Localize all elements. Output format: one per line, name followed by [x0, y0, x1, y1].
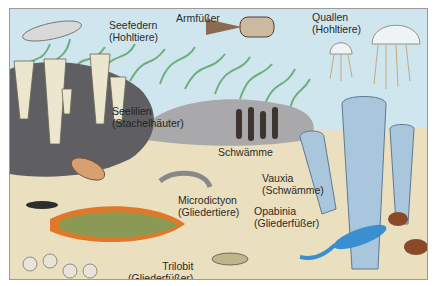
label-opabinia: Opabinia (Gliederfüßer)	[254, 205, 319, 229]
label-trilobit: Trilobit (Gliederfüßer)	[128, 260, 193, 280]
label-seelilien: Seelilien (Stachelhäuter)	[112, 105, 184, 129]
label-quallen: Quallen (Hohltiere)	[312, 11, 361, 35]
dark-arthropod-icon	[26, 201, 58, 209]
illustration-frame: Seefedern (Hohltiere) Armfüßer Quallen (…	[9, 8, 428, 280]
label-schwaemme: Schwämme	[218, 146, 273, 158]
label-armfuesser: Armfüßer	[176, 12, 220, 24]
spiny-worm-icon	[212, 253, 248, 265]
label-microdictyon: Microdictyon (Gliedertiere)	[178, 194, 239, 218]
urchin-icon	[404, 239, 427, 255]
label-seefedern: Seefedern (Hohltiere)	[109, 19, 158, 43]
label-vauxia: Vauxia (Schwämme)	[262, 172, 324, 196]
urchin-icon	[388, 212, 408, 226]
cambrian-sea-scene	[10, 9, 427, 279]
